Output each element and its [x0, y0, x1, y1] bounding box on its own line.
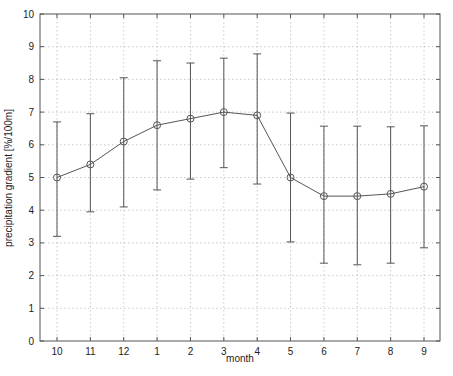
x-axis-ticks: 101112123456789 — [51, 14, 427, 357]
y-tick-label: 6 — [28, 139, 34, 150]
x-tick-label: 12 — [118, 346, 130, 357]
data-line — [57, 112, 424, 196]
y-tick-label: 4 — [28, 205, 34, 216]
data-markers — [54, 109, 428, 200]
x-axis-label: month — [226, 353, 254, 364]
error-bars — [53, 54, 428, 265]
x-tick-label: 6 — [321, 346, 327, 357]
y-axis-label: precipitation gradient [%/100m] — [3, 109, 14, 247]
y-tick-label: 5 — [28, 172, 34, 183]
y-tick-label: 3 — [28, 237, 34, 248]
y-tick-label: 0 — [28, 336, 34, 347]
y-tick-label: 8 — [28, 74, 34, 85]
x-tick-label: 8 — [388, 346, 394, 357]
y-tick-label: 10 — [23, 9, 35, 20]
x-tick-label: 5 — [288, 346, 294, 357]
x-tick-label: 10 — [51, 346, 63, 357]
x-tick-label: 2 — [188, 346, 194, 357]
x-tick-label: 1 — [154, 346, 160, 357]
grid-lines — [40, 14, 440, 341]
chart: 012345678910 101112123456789 month preci… — [0, 0, 453, 376]
y-tick-label: 9 — [28, 41, 34, 52]
x-tick-label: 7 — [354, 346, 360, 357]
x-tick-label: 11 — [85, 346, 96, 357]
y-tick-label: 2 — [28, 270, 34, 281]
x-tick-label: 9 — [421, 346, 427, 357]
y-tick-label: 7 — [28, 107, 34, 118]
x-tick-label: 4 — [254, 346, 260, 357]
y-tick-label: 1 — [28, 303, 34, 314]
